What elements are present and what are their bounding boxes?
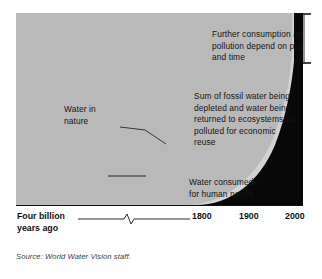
chart-plot-area: Water in nature Further consumption and …	[16, 13, 303, 205]
source-note: Source: World Water Vision staff.	[16, 252, 131, 261]
axis-tick-1800: 1800	[192, 211, 212, 221]
annotation-water-consumed: Water consumed— for human needs	[189, 177, 301, 200]
axis-break-line	[78, 211, 198, 227]
annotation-water-in-nature: Water in nature	[64, 104, 134, 127]
annotation-water-consumed-line2: for human needs	[189, 189, 301, 201]
axis-tick-2000: 2000	[285, 211, 305, 221]
range-bracket-further-consumption	[302, 13, 311, 64]
axis-tick-1900: 1900	[239, 211, 259, 221]
annotation-further-consumption: Further consumption and pollution depend…	[212, 29, 303, 64]
axis-baseline	[16, 205, 303, 206]
annotation-fossil-water: Sum of fossil water being depleted and w…	[194, 91, 298, 149]
annotation-water-in-nature-line2: nature	[64, 116, 134, 128]
axis-break-zigzag-icon	[124, 214, 134, 224]
annotation-water-in-nature-line1: Water in	[64, 104, 134, 116]
figure-container: Water in nature Further consumption and …	[0, 0, 322, 279]
chart-x-axis: Four billion years ago 1800 1900 2000	[0, 205, 322, 235]
annotation-water-consumed-line1: Water consumed—	[189, 177, 301, 189]
